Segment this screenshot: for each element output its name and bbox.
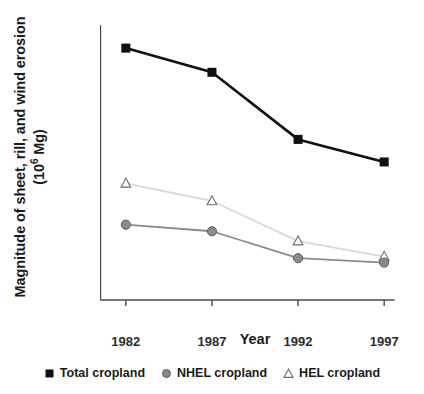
y-axis-title-line2: (106 Mg) xyxy=(31,129,48,185)
data-point-nhel-cropland-1997 xyxy=(380,258,389,267)
plot-svg xyxy=(100,25,410,325)
legend-label: Total cropland xyxy=(60,366,145,380)
series-line-total-cropland xyxy=(126,48,384,162)
series-line-nhel-cropland xyxy=(126,225,384,263)
data-point-nhel-cropland-1992 xyxy=(293,254,302,263)
open-triangle-icon xyxy=(283,368,294,379)
data-point-nhel-cropland-1982 xyxy=(121,220,130,229)
legend-label: HEL cropland xyxy=(299,366,380,380)
y-axis-unit-exponent: 6 xyxy=(29,159,40,164)
y-axis-unit-prefix: (10 xyxy=(31,164,47,185)
data-point-total-cropland-1987 xyxy=(207,68,216,77)
filled-circle-icon xyxy=(161,368,172,379)
legend-item-total-cropland: Total cropland xyxy=(44,366,145,380)
legend-square xyxy=(45,369,53,377)
data-point-total-cropland-1982 xyxy=(121,44,130,53)
filled-square-icon xyxy=(44,368,55,379)
y-axis-unit-suffix: Mg) xyxy=(31,129,47,158)
legend-item-hel-cropland: HEL cropland xyxy=(283,366,380,380)
chart-legend: Total croplandNHEL croplandHEL cropland xyxy=(0,366,424,380)
x-axis-title: Year xyxy=(100,331,410,347)
legend-label: NHEL cropland xyxy=(177,366,267,380)
erosion-line-chart: Magnitude of sheet, rill, and wind erosi… xyxy=(0,0,424,394)
data-point-total-cropland-1992 xyxy=(294,135,303,144)
legend-triangle xyxy=(284,369,293,377)
legend-circle xyxy=(163,369,171,377)
legend-item-nhel-cropland: NHEL cropland xyxy=(161,366,267,380)
data-point-total-cropland-1997 xyxy=(380,157,389,166)
plot-area: 50010001500200025003000 1982198719921997 xyxy=(100,25,410,300)
data-point-nhel-cropland-1987 xyxy=(207,227,216,236)
data-point-hel-cropland-1982 xyxy=(121,178,131,187)
y-axis-title-line1: Magnitude of sheet, rill, and wind erosi… xyxy=(12,17,29,298)
y-axis-title: Magnitude of sheet, rill, and wind erosi… xyxy=(2,2,58,312)
